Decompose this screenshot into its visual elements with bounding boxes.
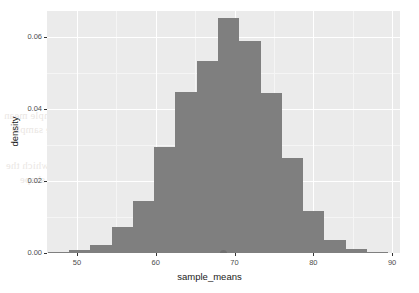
y-axis-tick-mark	[44, 253, 47, 254]
histogram-bar	[324, 240, 345, 253]
x-axis-tick-mark	[392, 253, 393, 256]
histogram-bar	[261, 93, 282, 253]
x-axis-tick-label: 80	[293, 258, 333, 267]
gridline-minor-vertical	[353, 11, 354, 253]
x-axis-tick-mark	[77, 253, 78, 256]
chart-figure: the sampling distribution of the sample …	[0, 0, 419, 293]
histogram-bar	[175, 92, 196, 253]
x-axis-tick-mark	[235, 253, 236, 256]
y-axis-tick-label: 0.00	[27, 248, 42, 257]
y-axis-title: density	[9, 92, 20, 172]
histogram-bar	[197, 61, 218, 253]
x-axis-tick-mark	[156, 253, 157, 256]
histogram-bar	[69, 250, 90, 253]
x-axis-title: sample_means	[0, 271, 419, 282]
x-axis-tick-label: 60	[136, 258, 176, 267]
histogram-bar	[282, 158, 303, 253]
histogram-bar	[346, 249, 367, 253]
x-axis-tick-label: 70	[215, 258, 255, 267]
histogram-bar	[154, 147, 175, 253]
histogram-bar	[133, 201, 154, 253]
x-axis-tick-mark	[313, 253, 314, 256]
y-axis-tick-mark	[44, 37, 47, 38]
y-axis-tick-label: 0.02	[27, 176, 42, 185]
histogram-bar	[90, 245, 111, 253]
gridline-major-vertical	[77, 11, 78, 253]
x-axis-tick-label: 90	[372, 258, 412, 267]
y-axis-tick-mark	[44, 181, 47, 182]
gridline-major-vertical	[392, 11, 393, 253]
histogram-bar	[48, 252, 69, 253]
y-axis-tick-mark	[44, 109, 47, 110]
point-artifact-icon	[220, 250, 227, 254]
histogram-bar	[239, 41, 260, 253]
plot-panel	[47, 11, 400, 253]
y-axis-tick-label: 0.04	[27, 104, 42, 113]
gridline-minor-vertical	[116, 11, 117, 253]
x-axis-tick-label: 50	[57, 258, 97, 267]
histogram-bar	[218, 18, 239, 253]
histogram-bar	[112, 227, 133, 253]
y-axis-tick-label: 0.06	[27, 32, 42, 41]
histogram-bar	[303, 211, 324, 253]
histogram-bar	[367, 252, 388, 253]
